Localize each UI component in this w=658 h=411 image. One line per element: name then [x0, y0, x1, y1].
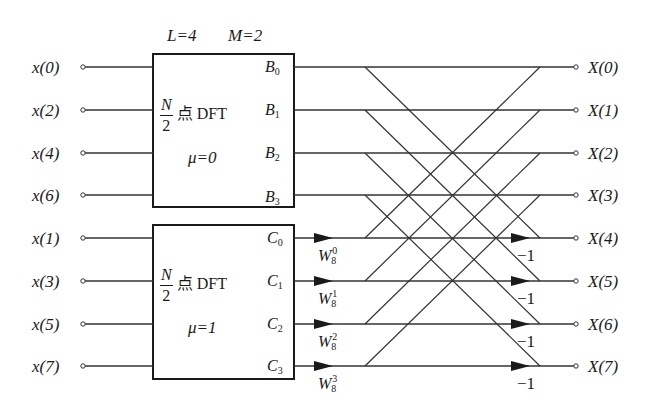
fraction-numerator: N	[160, 96, 173, 116]
input-label: x(5)	[32, 316, 59, 333]
twiddle-base: W	[318, 290, 331, 307]
arrow-icon	[314, 276, 333, 286]
input-label: x(0)	[32, 59, 59, 76]
fraction-numerator: N	[160, 266, 173, 286]
port-C1: C1	[267, 273, 283, 291]
port-index: 3	[278, 365, 283, 376]
input-label: x(6)	[32, 187, 59, 204]
terminal-icon	[574, 151, 578, 155]
terminal-icon	[81, 236, 85, 240]
terminal-icon	[574, 364, 578, 368]
fraction-n-over-2: N2	[160, 96, 173, 135]
twiddle-factor-label: W82	[318, 332, 337, 352]
twiddle-sub: 8	[331, 341, 336, 352]
port-letter: B	[265, 101, 275, 118]
terminal-icon	[574, 108, 578, 112]
port-index: 0	[278, 237, 283, 248]
input-label: x(7)	[32, 358, 59, 375]
twiddle-sub: 8	[331, 383, 336, 394]
arrow-icon	[511, 361, 530, 371]
port-letter: B	[265, 188, 275, 205]
output-label: X(4)	[588, 230, 618, 247]
port-letter: B	[265, 58, 275, 75]
port-C2: C2	[267, 316, 283, 334]
dft-block-even-title: N2 点 DFT	[160, 96, 227, 135]
header-L-label: L=4	[167, 27, 196, 44]
terminal-icon	[81, 364, 85, 368]
input-label: x(1)	[32, 230, 59, 247]
arrow-icon	[314, 233, 333, 243]
twiddle-base: W	[318, 333, 331, 350]
output-label: X(3)	[588, 187, 618, 204]
twiddle-sup: 0	[332, 245, 337, 256]
port-letter: C	[267, 229, 278, 246]
terminal-icon	[81, 108, 85, 112]
negation-label: −1	[517, 333, 535, 350]
arrow-icon	[314, 319, 333, 329]
fraction-denominator: 2	[160, 116, 173, 135]
twiddle-factor-label: W83	[318, 374, 337, 394]
twiddle-factor-label: W80	[318, 246, 337, 266]
block-title: 点 DFT	[177, 275, 227, 292]
twiddle-base: W	[318, 375, 331, 392]
port-letter: C	[267, 272, 278, 289]
port-index: 3	[275, 196, 280, 207]
output-label: X(0)	[588, 59, 618, 76]
negation-label: −1	[517, 247, 535, 264]
mu-label: μ=0	[188, 149, 217, 166]
port-index: 2	[278, 323, 283, 334]
twiddle-sub: 8	[331, 298, 336, 309]
input-label: x(2)	[32, 102, 59, 119]
negation-label: −1	[517, 375, 535, 392]
mu-label: μ=1	[188, 319, 217, 336]
twiddle-sup: 1	[332, 288, 337, 299]
port-B3: B3	[265, 189, 280, 207]
port-index: 1	[278, 280, 283, 291]
terminal-icon	[574, 236, 578, 240]
input-label: x(3)	[32, 273, 59, 290]
terminal-icon	[574, 193, 578, 197]
output-label: X(5)	[588, 273, 618, 290]
output-label: X(1)	[588, 102, 618, 119]
port-B1: B1	[265, 102, 280, 120]
dft-block-odd-title: N2 点 DFT	[160, 266, 227, 305]
terminal-icon	[81, 322, 85, 326]
terminal-icon	[81, 193, 85, 197]
output-terminals	[574, 65, 578, 368]
port-letter: B	[265, 144, 275, 161]
port-index: 0	[275, 66, 280, 77]
port-B2: B2	[265, 145, 280, 163]
twiddle-base: W	[318, 247, 331, 264]
arrow-icon	[511, 233, 530, 243]
input-terminals	[81, 65, 85, 368]
fraction-n-over-2: N2	[160, 266, 173, 305]
output-label: X(2)	[588, 145, 618, 162]
port-letter: C	[267, 315, 278, 332]
port-index: 1	[275, 109, 280, 120]
block-title: 点 DFT	[177, 105, 227, 122]
terminal-icon	[574, 322, 578, 326]
port-index: 2	[275, 152, 280, 163]
terminal-icon	[81, 151, 85, 155]
header-M-label: M=2	[228, 27, 262, 44]
output-label: X(7)	[588, 358, 618, 375]
port-letter: C	[267, 357, 278, 374]
twiddle-sub: 8	[331, 255, 336, 266]
arrow-icon	[511, 276, 530, 286]
terminal-icon	[81, 65, 85, 69]
butterfly-horizontal-lines	[294, 67, 574, 366]
terminal-icon	[574, 65, 578, 69]
output-label: X(6)	[588, 316, 618, 333]
port-B0: B0	[265, 59, 280, 77]
twiddle-sup: 2	[332, 331, 337, 342]
twiddle-sup: 3	[332, 373, 337, 384]
terminal-icon	[574, 279, 578, 283]
terminal-icon	[81, 279, 85, 283]
fraction-denominator: 2	[160, 286, 173, 305]
arrow-icon	[511, 319, 530, 329]
input-label: x(4)	[32, 145, 59, 162]
input-lines	[85, 67, 153, 366]
arrow-icon	[314, 361, 333, 371]
twiddle-factor-label: W81	[318, 289, 337, 309]
port-C3: C3	[267, 358, 283, 376]
